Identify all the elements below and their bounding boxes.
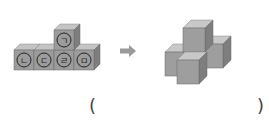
answer-blank[interactable] bbox=[100, 97, 255, 117]
label-digeut: ㄷ bbox=[40, 56, 48, 66]
left-cube-figure: ㄱ ㄴ ㄷ ㄹ ㅁ bbox=[0, 0, 125, 90]
label-giyeok: ㄱ bbox=[60, 36, 68, 46]
answer-close-paren: ) bbox=[257, 97, 264, 115]
right-arrow-icon bbox=[120, 44, 138, 58]
label-rieul: ㄹ bbox=[60, 56, 68, 66]
label-mieum: ㅁ bbox=[80, 56, 88, 66]
label-nieun: ㄴ bbox=[20, 56, 28, 66]
right-cube-figure bbox=[150, 0, 250, 90]
answer-open-paren: ( bbox=[89, 97, 96, 115]
